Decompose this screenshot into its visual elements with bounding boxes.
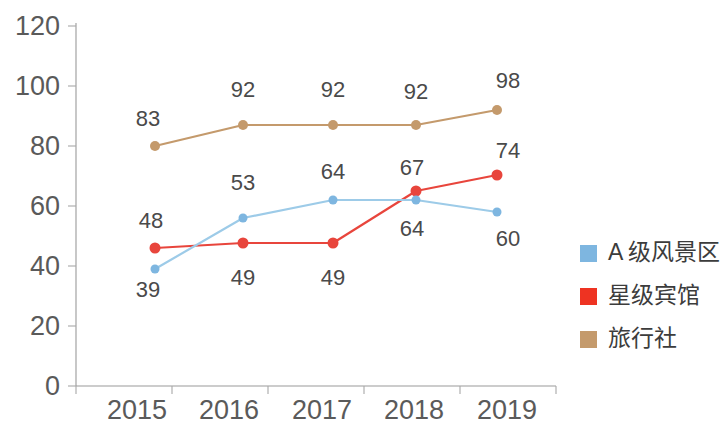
scenic-area-point-2016 — [239, 214, 248, 223]
star-hotel-point-2017 — [328, 238, 339, 249]
travel-agency-point-2018 — [411, 120, 421, 130]
star-hotel-line — [155, 175, 497, 248]
scenic-area-label-2017: 64 — [321, 159, 345, 184]
x-label-2018: 2018 — [384, 395, 444, 425]
scenic-area-point-2018 — [412, 196, 421, 205]
scenic-area-line — [155, 200, 497, 269]
scenic-area-label-2015: 39 — [136, 277, 160, 302]
legend-label-travel-agency: 旅行社 — [608, 325, 677, 351]
travel-agency-point-2015 — [150, 141, 160, 151]
scenic-area-label-2018: 64 — [400, 216, 424, 241]
legend-swatch-travel-agency[interactable] — [580, 331, 597, 348]
series-travel-agency: 83 92 92 92 98 — [136, 68, 520, 151]
star-hotel-label-2016: 49 — [231, 265, 255, 290]
x-label-2017: 2017 — [292, 395, 352, 425]
star-hotel-label-2015: 48 — [139, 208, 163, 233]
star-hotel-label-2018: 67 — [400, 155, 424, 180]
y-label-120: 120 — [15, 11, 60, 41]
x-label-2015: 2015 — [107, 395, 167, 425]
travel-agency-label-2019: 98 — [496, 68, 520, 93]
legend-label-scenic-area: A 级风景区 — [608, 239, 720, 265]
scenic-area-label-2019: 60 — [496, 226, 520, 251]
star-hotel-point-2019 — [492, 170, 503, 181]
travel-agency-label-2016: 92 — [231, 77, 255, 102]
legend-swatch-star-hotel[interactable] — [580, 288, 597, 305]
travel-agency-line — [155, 110, 497, 146]
line-chart: 120 100 80 60 40 20 0 2015 2016 2017 201… — [0, 0, 725, 426]
travel-agency-point-2016 — [238, 120, 248, 130]
star-hotel-label-2019: 74 — [496, 138, 520, 163]
y-label-0: 0 — [45, 371, 60, 401]
y-label-40: 40 — [30, 251, 60, 281]
x-axis-labels: 2015 2016 2017 2018 2019 — [107, 395, 537, 425]
scenic-area-point-2015 — [151, 265, 160, 274]
scenic-area-label-2016: 53 — [231, 170, 255, 195]
travel-agency-label-2015: 83 — [136, 106, 160, 131]
y-axis-labels: 120 100 80 60 40 20 0 — [15, 11, 60, 401]
travel-agency-point-2017 — [328, 120, 338, 130]
travel-agency-label-2018: 92 — [404, 79, 428, 104]
travel-agency-label-2017: 92 — [321, 77, 345, 102]
y-label-20: 20 — [30, 311, 60, 341]
y-label-100: 100 — [15, 71, 60, 101]
travel-agency-point-2019 — [492, 105, 502, 115]
x-label-2019: 2019 — [477, 395, 537, 425]
chart-legend: A 级风景区 星级宾馆 旅行社 — [580, 239, 720, 351]
legend-label-star-hotel: 星级宾馆 — [608, 282, 700, 308]
star-hotel-point-2015 — [150, 243, 161, 254]
y-label-60: 60 — [30, 191, 60, 221]
y-label-80: 80 — [30, 131, 60, 161]
star-hotel-point-2016 — [238, 238, 249, 249]
x-label-2016: 2016 — [199, 395, 259, 425]
chart-canvas: 120 100 80 60 40 20 0 2015 2016 2017 201… — [0, 0, 725, 426]
scenic-area-point-2017 — [329, 196, 338, 205]
star-hotel-label-2017: 49 — [321, 265, 345, 290]
star-hotel-point-2018 — [411, 186, 422, 197]
legend-swatch-scenic-area[interactable] — [580, 245, 597, 262]
scenic-area-point-2019 — [493, 208, 502, 217]
